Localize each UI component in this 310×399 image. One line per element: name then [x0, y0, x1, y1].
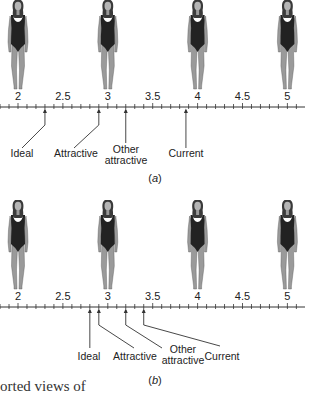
scale-label-5: 5	[284, 290, 290, 302]
marker-ideal: Ideal	[78, 309, 101, 363]
arrow-up-icon	[124, 109, 128, 114]
panel-label: (a)	[148, 172, 161, 184]
leader-line	[144, 310, 220, 346]
marker-label: attractive	[105, 154, 148, 166]
scale-label-2-5: 2.5	[55, 290, 70, 302]
marker-label: Ideal	[78, 350, 101, 362]
body-image-scale-b: 22.533.544.55IdealAttractiveOtherattract…	[0, 200, 310, 399]
scale-label-3-5: 3.5	[145, 290, 160, 302]
scale-label-4: 4	[195, 90, 201, 102]
scale-label-2: 2	[15, 290, 21, 302]
scale-label-3-5: 3.5	[145, 90, 160, 102]
woman-figure-icon	[277, 0, 297, 89]
scale-label-4: 4	[195, 290, 201, 302]
arrow-up-icon	[97, 309, 101, 314]
marker-label: Ideal	[11, 147, 34, 159]
marker-label: Attractive	[54, 147, 98, 159]
scale-label-3: 3	[105, 90, 111, 102]
scale-label-4-5: 4.5	[235, 290, 250, 302]
marker-label: attractive	[162, 354, 205, 366]
leader-line	[74, 110, 99, 148]
body-image-scale-a: 22.533.544.55IdealAttractiveOtherattract…	[0, 0, 310, 200]
marker-label: Current	[204, 350, 239, 362]
leader-line	[99, 310, 134, 348]
woman-figure-icon	[98, 200, 118, 289]
marker-attractive: Attractive	[54, 109, 101, 160]
scale-label-4-5: 4.5	[235, 90, 250, 102]
woman-figure-icon	[8, 200, 28, 289]
marker-label: Current	[168, 147, 203, 159]
marker-label: Attractive	[113, 350, 157, 362]
marker-other-attractive: Otherattractive	[105, 109, 148, 167]
arrow-up-icon	[97, 109, 101, 114]
arrow-up-icon	[184, 109, 188, 114]
scale-label-3: 3	[105, 290, 111, 302]
arrow-up-icon	[142, 309, 146, 314]
panel-label: (b)	[148, 374, 161, 386]
panel-a: 22.533.544.55IdealAttractiveOtherattract…	[0, 0, 310, 200]
woman-figure-icon	[98, 0, 118, 89]
woman-figure-icon	[188, 0, 208, 89]
marker-attractive: Attractive	[97, 309, 157, 363]
leader-line	[22, 110, 45, 148]
marker-ideal: Ideal	[11, 109, 47, 160]
woman-figure-icon	[277, 200, 297, 289]
woman-figure-icon	[8, 0, 28, 89]
scale-label-2: 2	[15, 90, 21, 102]
woman-figure-icon	[188, 200, 208, 289]
arrow-up-icon	[88, 309, 92, 314]
caption-fragment: orted views of	[0, 378, 86, 395]
scale-label-5: 5	[284, 90, 290, 102]
panel-b: 22.533.544.55IdealAttractiveOtherattract…	[0, 200, 310, 399]
marker-current: Current	[168, 109, 203, 160]
arrow-up-icon	[43, 109, 47, 114]
arrow-up-icon	[124, 309, 128, 314]
scale-label-2-5: 2.5	[55, 90, 70, 102]
